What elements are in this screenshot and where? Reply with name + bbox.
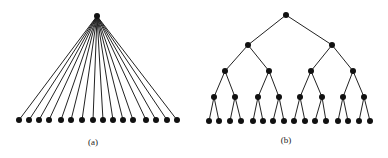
edge xyxy=(235,97,241,121)
leaf-node xyxy=(164,117,170,123)
leaf-node xyxy=(90,117,96,123)
edge xyxy=(364,97,370,121)
edge xyxy=(269,71,279,97)
leaf-node xyxy=(260,118,266,124)
internal-node xyxy=(319,94,325,100)
leaf-node xyxy=(206,118,212,124)
edge xyxy=(300,97,305,121)
internal-node xyxy=(211,94,217,100)
edge xyxy=(61,16,97,120)
leaf-node xyxy=(345,118,351,124)
leaf-node xyxy=(16,117,22,123)
internal-node xyxy=(361,94,367,100)
root-node xyxy=(94,13,100,19)
panel-a-star-tree xyxy=(16,13,180,123)
edge xyxy=(322,97,326,121)
edge xyxy=(248,15,286,45)
edge xyxy=(353,71,364,97)
internal-node xyxy=(255,94,261,100)
edge xyxy=(338,97,343,121)
internal-node xyxy=(329,42,335,48)
internal-node xyxy=(350,68,356,74)
leaf-node xyxy=(26,117,32,123)
edge xyxy=(225,45,248,71)
edge xyxy=(97,16,113,120)
caption-a: (a) xyxy=(88,137,98,147)
leaf-node xyxy=(291,118,297,124)
leaf-node xyxy=(323,118,329,124)
edge xyxy=(332,45,353,71)
leaf-node xyxy=(130,117,136,123)
leaf-node xyxy=(216,118,222,124)
edge xyxy=(359,97,364,121)
panel-b-binary-tree xyxy=(206,12,373,124)
leaf-node xyxy=(367,118,373,124)
edge xyxy=(209,97,214,121)
edge xyxy=(258,71,269,97)
internal-node xyxy=(297,94,303,100)
edge xyxy=(97,16,156,120)
edge xyxy=(97,16,123,120)
edge xyxy=(253,97,258,121)
leaf-node xyxy=(356,118,362,124)
internal-node xyxy=(276,94,282,100)
leaf-node xyxy=(79,117,85,123)
edge xyxy=(97,16,177,120)
edge xyxy=(311,45,332,71)
leaf-node xyxy=(68,117,74,123)
edge xyxy=(225,71,235,97)
edge xyxy=(286,15,332,45)
edge xyxy=(97,16,146,120)
internal-node xyxy=(222,68,228,74)
edge xyxy=(230,97,235,121)
root-node xyxy=(283,12,289,18)
leaf-node xyxy=(58,117,64,123)
leaf-node xyxy=(46,117,52,123)
edge xyxy=(214,97,219,121)
edge xyxy=(97,16,167,120)
edge xyxy=(315,97,322,121)
leaf-node xyxy=(174,117,180,123)
leaf-node xyxy=(335,118,341,124)
edge xyxy=(279,97,284,121)
edge xyxy=(300,71,311,97)
leaf-node xyxy=(281,118,287,124)
leaf-node xyxy=(110,117,116,123)
figure-canvas xyxy=(0,0,388,158)
edge xyxy=(19,16,97,120)
edge xyxy=(29,16,97,120)
leaf-node xyxy=(312,118,318,124)
edge xyxy=(39,16,97,120)
leaf-node xyxy=(153,117,159,123)
internal-node xyxy=(308,68,314,74)
edge xyxy=(273,97,279,121)
internal-node xyxy=(245,42,251,48)
edge xyxy=(311,71,322,97)
leaf-node xyxy=(100,117,106,123)
leaf-node xyxy=(36,117,42,123)
leaf-node xyxy=(143,117,149,123)
leaf-node xyxy=(250,118,256,124)
edge xyxy=(248,45,269,71)
edge xyxy=(343,71,353,97)
leaf-node xyxy=(238,118,244,124)
edge xyxy=(294,97,300,121)
edge xyxy=(343,97,348,121)
edge xyxy=(258,97,263,121)
internal-node xyxy=(266,68,272,74)
caption-b: (b) xyxy=(281,135,292,145)
leaf-node xyxy=(270,118,276,124)
leaf-node xyxy=(120,117,126,123)
leaf-node xyxy=(302,118,308,124)
edge xyxy=(214,71,225,97)
internal-node xyxy=(232,94,238,100)
leaf-node xyxy=(227,118,233,124)
internal-node xyxy=(340,94,346,100)
